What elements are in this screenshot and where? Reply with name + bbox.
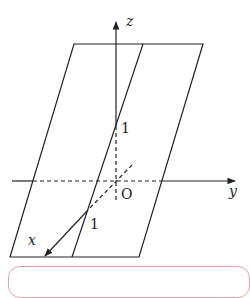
y-axis-label: y [228, 183, 237, 199]
inner-plane-edge [72, 44, 143, 257]
outer-plane [10, 44, 203, 257]
z-axis-label: z [125, 13, 134, 29]
z-tick-label: 1 [121, 120, 130, 136]
x-axis [45, 210, 88, 256]
x-axis-label: x [28, 232, 36, 248]
origin-label: O [121, 186, 132, 202]
x-tick-label: 1 [90, 216, 99, 232]
callout-box [8, 266, 250, 298]
